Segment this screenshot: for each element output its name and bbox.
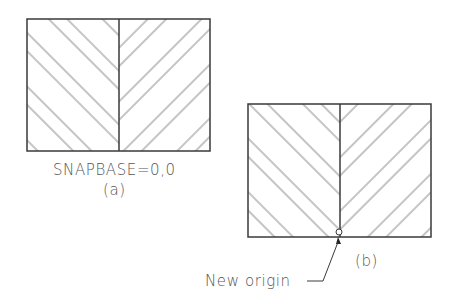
new-origin-label: New origin — [205, 272, 291, 290]
panel-a-caption: (a) — [103, 181, 126, 199]
snapbase-label: SNAPBASE=0,0 — [53, 161, 176, 179]
panel-a: SNAPBASE=0,0 (a) — [27, 19, 210, 199]
panel-b-right-hatch — [340, 104, 431, 237]
panel-b: (b) New origin — [205, 104, 431, 290]
panel-a-right-hatch — [119, 19, 210, 151]
panel-a-left-hatch — [27, 19, 119, 151]
origin-leader-line — [307, 242, 338, 281]
snapbase-diagram: SNAPBASE=0,0 (a) (b) New origin — [0, 0, 451, 308]
panel-b-left-hatch — [248, 104, 340, 237]
leader-arrowhead-icon — [336, 237, 341, 244]
panel-b-caption: (b) — [355, 252, 378, 270]
origin-marker-icon — [336, 229, 342, 235]
